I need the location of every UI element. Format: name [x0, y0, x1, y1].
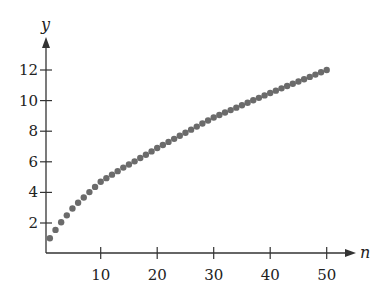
- data-point: [244, 100, 250, 106]
- y-axis-arrow-icon: [42, 37, 50, 48]
- data-point: [211, 114, 217, 120]
- data-point: [126, 161, 132, 167]
- data-point: [307, 74, 313, 80]
- data-point: [109, 171, 115, 177]
- y-tick-label: 10: [19, 92, 38, 110]
- data-point: [227, 107, 233, 113]
- data-point: [64, 212, 70, 218]
- data-point: [256, 95, 262, 101]
- data-point: [261, 92, 267, 98]
- data-points: [47, 67, 330, 242]
- data-point: [120, 164, 126, 170]
- data-point: [182, 130, 188, 136]
- data-point: [58, 219, 64, 225]
- data-point: [171, 136, 177, 142]
- x-tick-label: 50: [317, 266, 336, 284]
- data-point: [205, 117, 211, 123]
- data-point: [137, 155, 143, 161]
- data-point: [92, 184, 98, 190]
- data-point: [278, 85, 284, 91]
- data-point: [199, 120, 205, 126]
- x-tick-label: 20: [148, 266, 167, 284]
- chart: n y 1020304050 24681012: [0, 0, 380, 294]
- data-point: [273, 87, 279, 93]
- data-point: [103, 175, 109, 181]
- data-point: [165, 139, 171, 145]
- data-point: [250, 97, 256, 103]
- data-point: [47, 235, 53, 241]
- data-point: [267, 90, 273, 96]
- data-point: [312, 71, 318, 77]
- data-point: [98, 178, 104, 184]
- x-tick-label: 30: [204, 266, 223, 284]
- x-tick-label: 40: [261, 266, 280, 284]
- data-point: [295, 78, 301, 84]
- data-point: [324, 67, 330, 73]
- x-axis-arrow-icon: [345, 249, 356, 257]
- data-point: [75, 200, 81, 206]
- data-point: [160, 142, 166, 148]
- data-point: [86, 189, 92, 195]
- data-point: [194, 123, 200, 129]
- data-point: [154, 145, 160, 151]
- y-ticks: 24681012: [19, 61, 52, 232]
- axes: n y: [40, 15, 370, 262]
- data-point: [69, 205, 75, 211]
- y-tick-label: 4: [28, 183, 38, 201]
- data-point: [81, 194, 87, 200]
- data-point: [177, 133, 183, 139]
- data-point: [188, 126, 194, 132]
- data-point: [290, 81, 296, 87]
- y-axis-label: y: [40, 15, 51, 34]
- data-point: [52, 227, 58, 233]
- y-tick-label: 6: [28, 153, 38, 171]
- data-point: [284, 83, 290, 89]
- y-tick-label: 12: [19, 61, 38, 79]
- data-point: [216, 112, 222, 118]
- y-tick-label: 8: [28, 122, 38, 140]
- y-tick-label: 2: [28, 214, 38, 232]
- data-point: [148, 148, 154, 154]
- data-point: [239, 102, 245, 108]
- x-tick-label: 10: [91, 266, 110, 284]
- data-point: [301, 76, 307, 82]
- data-point: [131, 158, 137, 164]
- x-axis-label: n: [360, 243, 370, 262]
- data-point: [222, 109, 228, 115]
- data-point: [318, 69, 324, 75]
- data-point: [233, 104, 239, 110]
- data-point: [143, 152, 149, 158]
- data-point: [114, 168, 120, 174]
